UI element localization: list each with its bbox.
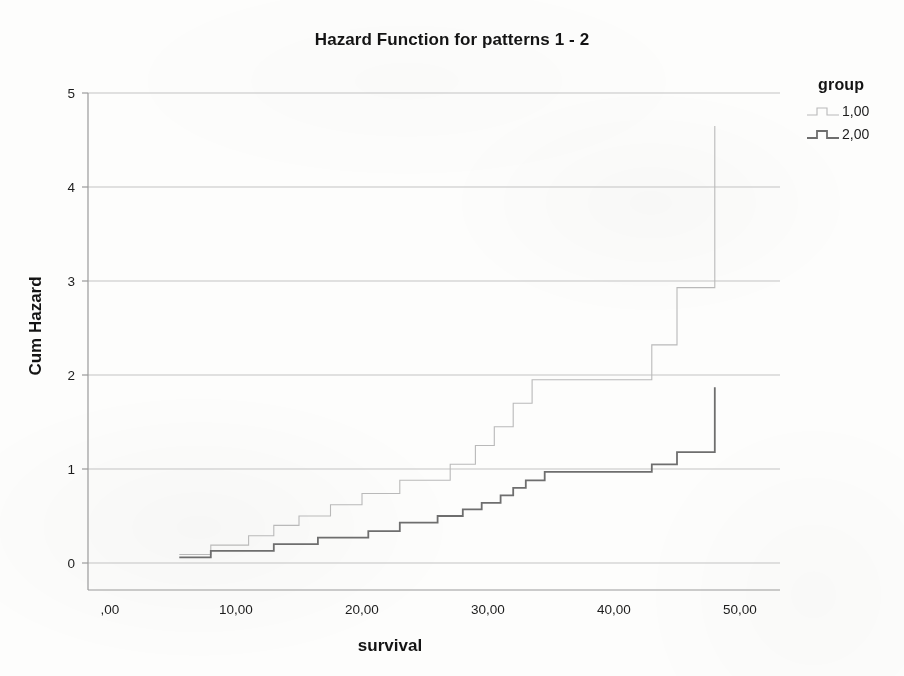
legend: group 1,002,00 [806, 76, 902, 147]
legend-entry-1[interactable]: 1,00 [806, 101, 902, 121]
tick-label-group: 012345,0010,0020,0030,0040,0050,00 [67, 86, 756, 617]
x-tick-label-50: 50,00 [723, 602, 757, 617]
x-tick-label-30: 30,00 [471, 602, 505, 617]
series-line-group-2 [179, 387, 715, 557]
gridline-group [88, 93, 780, 563]
y-tick-label-2: 2 [67, 368, 75, 383]
legend-entry-label: 1,00 [842, 103, 869, 119]
x-tick-label-10: 10,00 [219, 602, 253, 617]
legend-title: group [818, 76, 902, 94]
series-line-group-1 [179, 126, 715, 555]
y-tick-label-0: 0 [67, 556, 75, 571]
axis-group [88, 93, 780, 590]
x-tick-label-20: 20,00 [345, 602, 379, 617]
y-axis-title: Cum Hazard [26, 241, 46, 411]
y-tick-label-5: 5 [67, 86, 75, 101]
legend-entry-label: 2,00 [842, 126, 869, 142]
plot-area: 012345,0010,0020,0030,0040,0050,00 [0, 0, 904, 676]
y-tick-label-4: 4 [67, 180, 75, 195]
x-axis-title: survival [0, 636, 780, 656]
y-tick-label-3: 3 [67, 274, 75, 289]
x-tick-label-40: 40,00 [597, 602, 631, 617]
hazard-function-chart: Hazard Function for patterns 1 - 2 01234… [0, 0, 904, 676]
legend-entries: 1,002,00 [806, 101, 902, 144]
legend-swatch-step-icon [806, 104, 840, 118]
y-tick-label-1: 1 [67, 462, 75, 477]
tick-group [82, 93, 88, 563]
x-tick-label-0: ,00 [101, 602, 120, 617]
series-group [179, 126, 715, 557]
legend-entry-2[interactable]: 2,00 [806, 124, 902, 144]
legend-swatch-step-icon [806, 127, 840, 141]
